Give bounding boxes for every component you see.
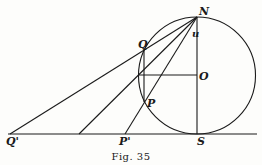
label-P: P — [146, 97, 156, 110]
geometry-diagram: N Q u O P Q' P' S Fig. 35 — [0, 0, 262, 165]
label-N: N — [198, 5, 210, 18]
label-O: O — [199, 70, 209, 83]
label-P-prime: P' — [118, 135, 131, 148]
figure-caption: Fig. 35 — [111, 151, 150, 162]
label-Q: Q — [138, 38, 148, 51]
label-Q-prime: Q' — [6, 135, 19, 148]
figure-35: N Q u O P Q' P' S Fig. 35 — [0, 0, 262, 165]
label-S: S — [197, 135, 205, 148]
label-u: u — [192, 28, 199, 39]
